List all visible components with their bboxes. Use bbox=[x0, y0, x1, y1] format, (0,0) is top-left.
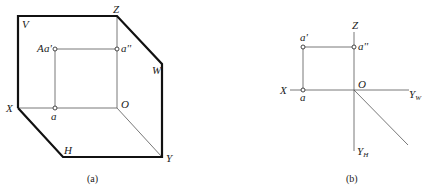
point-a-prime-a bbox=[53, 47, 57, 51]
label-a-prime-b: a' bbox=[300, 31, 309, 43]
point-a-double-prime-a bbox=[115, 47, 119, 51]
label-yw-sub: W bbox=[415, 94, 422, 102]
label-x-a: X bbox=[5, 102, 14, 114]
label-z-b: Z bbox=[352, 19, 359, 31]
caption-b: (b) bbox=[346, 173, 358, 185]
label-y-a: Y bbox=[166, 152, 174, 164]
label-a-a: a bbox=[51, 110, 57, 122]
label-yh-sub: H bbox=[362, 151, 369, 159]
label-a-b: a bbox=[300, 91, 306, 103]
label-origin-b: O bbox=[358, 78, 366, 90]
figure-b: Z X O a' a'' a YW YH (b) bbox=[279, 19, 422, 185]
label-a-double-prime-b: a'' bbox=[358, 40, 369, 52]
point-a-prime-b bbox=[301, 45, 305, 49]
label-a-prime-a: a' bbox=[44, 42, 53, 54]
label-h-plane: H bbox=[63, 144, 73, 156]
label-point-A: A bbox=[36, 42, 44, 54]
label-yw-b: YW bbox=[409, 88, 422, 102]
label-v-plane: V bbox=[22, 18, 30, 30]
label-x-b: X bbox=[279, 84, 288, 96]
projection-diagram: V Z W X H Y O A a' a'' a (a) Z X O a' a'… bbox=[0, 0, 431, 191]
45-degree-line-b bbox=[354, 90, 408, 145]
label-origin-a: O bbox=[121, 98, 129, 110]
caption-a: (a) bbox=[87, 173, 98, 185]
label-w-plane: W bbox=[152, 64, 162, 76]
label-z-a: Z bbox=[113, 3, 120, 15]
point-a-double-prime-b bbox=[352, 45, 356, 49]
label-a-double-prime-a: a'' bbox=[121, 42, 132, 54]
label-yh-b: YH bbox=[357, 145, 369, 159]
projection-box-outline bbox=[18, 16, 162, 157]
figure-a: V Z W X H Y O A a' a'' a (a) bbox=[5, 3, 174, 185]
y-axis-line-a bbox=[117, 108, 162, 157]
